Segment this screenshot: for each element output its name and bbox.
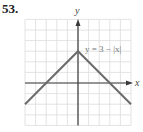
graph: x y y = 3 − |x| [0,0,143,132]
y-axis-label: y [74,5,80,16]
x-axis-label: x [134,77,140,88]
x-axis-arrow-icon [126,81,133,86]
equation-label: y = 3 − |x| [85,44,121,54]
y-axis-arrow-icon [76,19,81,26]
